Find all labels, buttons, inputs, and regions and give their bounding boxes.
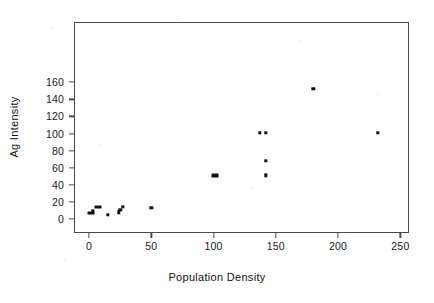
data-point <box>376 131 379 134</box>
x-tick-0 <box>88 233 89 238</box>
x-tick-label-50: 50 <box>145 240 157 252</box>
x-tick-label-150: 150 <box>267 240 285 252</box>
y-tick-label-60: 60 <box>52 162 64 174</box>
y-tick-100 <box>69 133 74 134</box>
data-point <box>150 206 153 209</box>
x-tick-100 <box>213 233 214 238</box>
data-point <box>212 174 219 177</box>
y-tick-label-140: 140 <box>46 93 64 105</box>
data-point <box>106 213 109 216</box>
y-tick-label-80: 80 <box>52 145 64 157</box>
data-point <box>91 210 94 213</box>
y-tick-40 <box>69 184 74 185</box>
y-tick-160 <box>69 82 74 83</box>
data-point <box>264 174 267 177</box>
data-point <box>258 131 261 134</box>
x-tick-250 <box>400 233 401 238</box>
y-tick-label-0: 0 <box>58 213 64 225</box>
y-tick-label-160: 160 <box>46 76 64 88</box>
data-point <box>121 205 124 208</box>
y-tick-20 <box>69 201 74 202</box>
y-tick-label-40: 40 <box>52 179 64 191</box>
data-point <box>94 205 101 208</box>
y-tick-0 <box>69 218 74 219</box>
x-tick-150 <box>275 233 276 238</box>
x-tick-label-100: 100 <box>204 240 222 252</box>
y-tick-140 <box>69 99 74 100</box>
scatter-plot-figure: 050100150200250 020406080100120140160 Po… <box>0 0 434 303</box>
y-tick-label-100: 100 <box>46 128 64 140</box>
y-tick-label-20: 20 <box>52 196 64 208</box>
y-tick-60 <box>69 167 74 168</box>
x-tick-50 <box>151 233 152 238</box>
data-point <box>264 131 267 134</box>
x-axis-title: Population Density <box>0 271 434 283</box>
data-point <box>311 87 314 90</box>
y-axis-title: Ag Intensity <box>8 96 20 157</box>
x-tick-200 <box>337 233 338 238</box>
y-tick-label-120: 120 <box>46 110 64 122</box>
data-point <box>264 159 267 162</box>
x-tick-label-250: 250 <box>391 240 409 252</box>
y-tick-120 <box>69 116 74 117</box>
x-tick-label-200: 200 <box>329 240 347 252</box>
x-tick-label-0: 0 <box>86 240 92 252</box>
plot-area-frame <box>74 22 409 233</box>
y-tick-80 <box>69 150 74 151</box>
